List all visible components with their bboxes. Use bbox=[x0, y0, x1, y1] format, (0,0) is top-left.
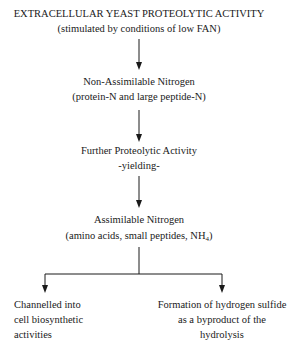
arrowhead-icon bbox=[136, 134, 142, 142]
arrowhead-icon bbox=[136, 200, 142, 208]
node-line: Channelled into bbox=[14, 297, 81, 312]
node-line: hydrolysis bbox=[150, 327, 294, 342]
node-title: EXTRACELLULAR YEAST PROTEOLYTIC ACTIVITY bbox=[0, 6, 278, 21]
node-line: activities bbox=[14, 327, 52, 342]
node-title: Further Proteolytic Activity bbox=[0, 143, 278, 158]
node-subtitle: (stimulated by conditions of low FAN) bbox=[0, 21, 278, 36]
node-line: cell biosynthetic bbox=[14, 312, 83, 327]
subtitle-close: ) bbox=[209, 230, 213, 241]
subtitle-text: (amino acids, small peptides, NH bbox=[66, 230, 206, 241]
node-line: Formation of hydrogen sulfide bbox=[150, 297, 294, 312]
node-subtitle: (protein-N and large peptide-N) bbox=[0, 89, 278, 104]
arrowhead-icon bbox=[136, 62, 142, 70]
node-title: Non-Assimilable Nitrogen bbox=[0, 74, 278, 89]
arrowhead-icon bbox=[219, 285, 225, 293]
node-subtitle: -yielding- bbox=[0, 158, 278, 173]
arrowhead-icon bbox=[42, 285, 48, 293]
node-title: Assimilable Nitrogen bbox=[0, 212, 278, 227]
node-subtitle: (amino acids, small peptides, NH4) bbox=[0, 228, 278, 247]
node-line: as a byproduct of the bbox=[150, 312, 294, 327]
